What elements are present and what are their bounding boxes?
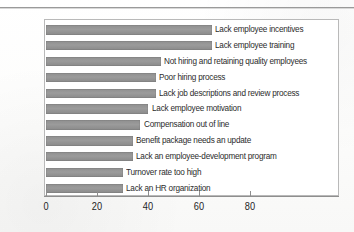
bar-label: Compensation out of line	[144, 120, 229, 129]
bar	[46, 120, 140, 129]
x-axis-tick-label: 80	[245, 201, 255, 212]
bar	[46, 57, 161, 66]
bar-row: Turnover rate too high	[46, 165, 210, 181]
bar-label: Turnover rate too high	[126, 168, 201, 177]
bar-label: Lack job descriptions and review process	[159, 89, 299, 98]
bar	[46, 104, 148, 113]
bar-row: Lack job descriptions and review process	[46, 85, 315, 101]
bar	[46, 136, 133, 145]
bar	[46, 89, 156, 98]
x-axis-tick	[97, 191, 98, 196]
bar	[46, 73, 156, 82]
bar-row: Lack an HR organization	[46, 181, 220, 197]
bar-row: Poor hiring process	[46, 70, 233, 86]
bar-row: Lack an employee-development program	[46, 149, 292, 165]
bar-row: Not hiring and retaining quality employe…	[46, 54, 323, 70]
bar-label: Benefit package needs an update	[136, 136, 251, 145]
bar-row: Lack employee motivation	[46, 101, 251, 117]
bar	[46, 168, 123, 177]
bar-row: Benefit package needs an update	[46, 133, 264, 149]
bar	[46, 25, 212, 34]
x-axis-tick-label: 60	[194, 201, 204, 212]
x-axis-tick	[46, 191, 47, 196]
chart-page: Lack employee incentivesLack employee tr…	[0, 0, 354, 232]
x-axis-tick	[250, 191, 251, 196]
x-axis-tick-label: 20	[92, 201, 102, 212]
bar-row: Lack employee incentives	[46, 22, 313, 38]
page-top-rule-shadow	[0, 8, 354, 9]
bar	[46, 152, 133, 161]
bar-label: Not hiring and retaining quality employe…	[164, 57, 307, 66]
bar-label: Lack an employee-development program	[136, 152, 277, 161]
x-axis-tick	[199, 191, 200, 196]
bar-label: Lack an HR organization	[126, 184, 210, 193]
bar-label: Lack employee incentives	[215, 25, 303, 34]
bar-row: Lack employee training	[46, 38, 303, 54]
bar	[46, 184, 123, 193]
x-axis-tick	[148, 191, 149, 196]
bar-label: Lack employee training	[215, 41, 294, 50]
bar-label: Poor hiring process	[159, 73, 225, 82]
bar-label: Lack employee motivation	[152, 104, 241, 113]
bar	[46, 41, 212, 50]
x-axis-line	[44, 196, 339, 197]
bar-row: Compensation out of line	[46, 117, 238, 133]
x-axis-tick-label: 0	[43, 201, 48, 212]
bars-layer: Lack employee incentivesLack employee tr…	[46, 21, 338, 195]
x-axis-tick-label: 40	[143, 201, 153, 212]
